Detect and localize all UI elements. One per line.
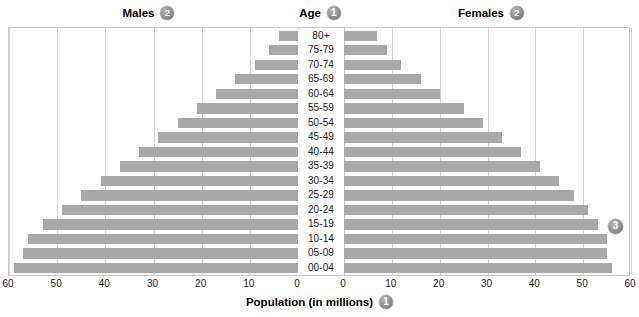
pyramid-row: 30-34 bbox=[9, 174, 629, 189]
pyramid-row: 15-19 bbox=[9, 217, 629, 232]
pyramid-row: 40-44 bbox=[9, 145, 629, 160]
bar-rows: 80+75-7970-7465-6960-6455-5950-5445-4940… bbox=[9, 28, 629, 275]
age-group-label: 00-04 bbox=[298, 261, 344, 276]
bar-male-45-49 bbox=[158, 132, 298, 142]
age-group-label: 65-69 bbox=[298, 72, 344, 87]
bar-female-05-09 bbox=[344, 248, 607, 258]
pyramid-row: 55-59 bbox=[9, 101, 629, 116]
age-group-label: 25-29 bbox=[298, 188, 344, 203]
callout-badge-1-age: 1 bbox=[327, 6, 341, 20]
age-group-label: 55-59 bbox=[298, 101, 344, 116]
xtick-male-50: 50 bbox=[51, 278, 62, 289]
bar-female-15-19 bbox=[344, 219, 598, 229]
xtick-female-30: 30 bbox=[481, 278, 492, 289]
xtick-male-0: 0 bbox=[294, 278, 300, 289]
bar-female-00-04 bbox=[344, 263, 612, 273]
bar-female-45-49 bbox=[344, 132, 502, 142]
callout-badge-2-males: 2 bbox=[160, 6, 174, 20]
age-group-label: 75-79 bbox=[298, 43, 344, 58]
pyramid-row: 60-64 bbox=[9, 87, 629, 102]
age-group-label: 05-09 bbox=[298, 246, 344, 261]
bar-female-30-34 bbox=[344, 176, 559, 186]
bar-male-70-74 bbox=[255, 60, 298, 70]
bar-female-10-14 bbox=[344, 234, 607, 244]
bar-female-75-79 bbox=[344, 45, 387, 55]
x-axis-title-text: Population (in millions) bbox=[246, 296, 373, 308]
age-group-label: 20-24 bbox=[298, 203, 344, 218]
bar-male-30-34 bbox=[101, 176, 298, 186]
females-header: Females 2 bbox=[343, 3, 639, 23]
pyramid-row: 75-79 bbox=[9, 43, 629, 58]
callout-badge-3: 3 bbox=[608, 219, 623, 234]
pyramid-row: 80+ bbox=[9, 29, 629, 44]
pyramid-row: 65-69 bbox=[9, 72, 629, 87]
bar-male-40-44 bbox=[139, 147, 298, 157]
bar-male-75-79 bbox=[269, 45, 298, 55]
age-group-label: 15-19 bbox=[298, 217, 344, 232]
bar-male-80+ bbox=[279, 31, 298, 41]
age-group-label: 10-14 bbox=[298, 232, 344, 247]
age-group-label: 70-74 bbox=[298, 58, 344, 73]
bar-male-55-59 bbox=[197, 103, 298, 113]
bar-female-25-29 bbox=[344, 190, 574, 200]
bar-male-00-04 bbox=[14, 263, 298, 273]
bar-female-70-74 bbox=[344, 60, 401, 70]
age-group-label: 45-49 bbox=[298, 130, 344, 145]
pyramid-row: 20-24 bbox=[9, 203, 629, 218]
age-group-label: 50-54 bbox=[298, 116, 344, 131]
age-group-label: 40-44 bbox=[298, 145, 344, 160]
age-group-label: 60-64 bbox=[298, 87, 344, 102]
males-label: Males bbox=[123, 7, 155, 19]
males-header: Males 2 bbox=[0, 3, 297, 23]
xtick-female-50: 50 bbox=[577, 278, 588, 289]
bar-female-20-24 bbox=[344, 205, 588, 215]
xtick-female-60: 60 bbox=[624, 278, 635, 289]
females-label: Females bbox=[458, 7, 504, 19]
age-label: Age bbox=[299, 7, 321, 19]
xtick-female-40: 40 bbox=[529, 278, 540, 289]
bar-male-05-09 bbox=[23, 248, 298, 258]
xtick-male-10: 10 bbox=[243, 278, 254, 289]
bar-male-25-29 bbox=[81, 190, 298, 200]
callout-badge-2-females: 2 bbox=[510, 6, 524, 20]
pyramid-row: 45-49 bbox=[9, 130, 629, 145]
bar-female-55-59 bbox=[344, 103, 464, 113]
age-group-label: 35-39 bbox=[298, 159, 344, 174]
pyramid-row: 10-14 bbox=[9, 232, 629, 247]
gridline-female-60 bbox=[631, 28, 632, 275]
xtick-female-0: 0 bbox=[340, 278, 346, 289]
bar-male-60-64 bbox=[216, 89, 298, 99]
pyramid-row: 00-04 bbox=[9, 261, 629, 276]
bar-female-60-64 bbox=[344, 89, 440, 99]
pyramid-row: 50-54 bbox=[9, 116, 629, 131]
plot-area: 80+75-7970-7465-6960-6455-5950-5445-4940… bbox=[8, 27, 630, 276]
bar-male-50-54 bbox=[178, 118, 298, 128]
xtick-female-20: 20 bbox=[433, 278, 444, 289]
bar-male-20-24 bbox=[62, 205, 298, 215]
bar-female-65-69 bbox=[344, 74, 421, 84]
age-header: Age 1 bbox=[297, 3, 343, 23]
age-group-label: 30-34 bbox=[298, 174, 344, 189]
pyramid-row: 70-74 bbox=[9, 58, 629, 73]
x-axis-title: Population (in millions) 1 bbox=[0, 295, 639, 309]
bar-female-80+ bbox=[344, 31, 377, 41]
pyramid-row: 05-09 bbox=[9, 246, 629, 261]
callout-badge-3-wrapper: 3 bbox=[608, 215, 623, 234]
bar-female-35-39 bbox=[344, 161, 540, 171]
population-pyramid-chart: Males 2 Age 1 Females 2 80+75-7970-7465-… bbox=[0, 0, 639, 317]
bar-female-40-44 bbox=[344, 147, 521, 157]
bar-male-15-19 bbox=[43, 219, 298, 229]
pyramid-row: 35-39 bbox=[9, 159, 629, 174]
bar-male-35-39 bbox=[120, 161, 298, 171]
bar-male-65-69 bbox=[235, 74, 298, 84]
xtick-male-40: 40 bbox=[99, 278, 110, 289]
age-group-label: 80+ bbox=[298, 29, 344, 44]
xtick-female-10: 10 bbox=[385, 278, 396, 289]
bar-female-50-54 bbox=[344, 118, 483, 128]
xtick-male-30: 30 bbox=[147, 278, 158, 289]
callout-badge-1-axis: 1 bbox=[379, 295, 393, 309]
pyramid-row: 25-29 bbox=[9, 188, 629, 203]
bar-male-10-14 bbox=[28, 234, 298, 244]
xtick-male-20: 20 bbox=[195, 278, 206, 289]
xtick-male-60: 60 bbox=[2, 278, 13, 289]
